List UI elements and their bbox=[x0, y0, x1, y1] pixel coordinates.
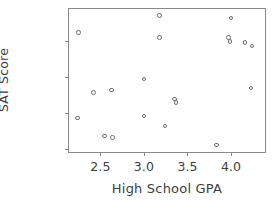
data-point bbox=[157, 35, 162, 40]
x-axis-tick-label: 4.0 bbox=[211, 159, 251, 174]
scatter-plot: SAT Score 8001000120014002.53.03.54.0 Hi… bbox=[0, 0, 279, 203]
data-point bbox=[110, 135, 115, 140]
x-axis-tick bbox=[231, 152, 232, 156]
data-point bbox=[76, 30, 81, 35]
data-point bbox=[102, 134, 107, 139]
data-point bbox=[157, 13, 162, 18]
y-axis-tick bbox=[65, 113, 69, 114]
data-point bbox=[214, 143, 219, 148]
data-point bbox=[243, 40, 248, 45]
data-point bbox=[250, 44, 255, 49]
y-axis-tick bbox=[65, 77, 69, 78]
data-point bbox=[142, 114, 147, 119]
data-point bbox=[249, 86, 254, 91]
data-point bbox=[109, 88, 114, 93]
x-axis-title: High School GPA bbox=[68, 181, 266, 196]
x-axis-tick bbox=[144, 152, 145, 156]
y-axis-title: SAT Score bbox=[0, 48, 11, 112]
data-point bbox=[174, 100, 179, 105]
x-axis-tick bbox=[187, 152, 188, 156]
y-axis-tick bbox=[65, 149, 69, 150]
data-point bbox=[91, 90, 96, 95]
data-point bbox=[228, 39, 233, 44]
plot-area: 8001000120014002.53.03.54.0 bbox=[68, 8, 266, 153]
x-axis-tick bbox=[100, 152, 101, 156]
data-point bbox=[142, 77, 147, 82]
y-axis-tick bbox=[65, 41, 69, 42]
x-axis-tick-label: 2.5 bbox=[80, 159, 120, 174]
x-axis-tick-label: 3.5 bbox=[167, 159, 207, 174]
data-point bbox=[229, 16, 234, 21]
data-point bbox=[75, 116, 80, 121]
x-axis-tick-label: 3.0 bbox=[124, 159, 164, 174]
data-point bbox=[163, 124, 168, 129]
